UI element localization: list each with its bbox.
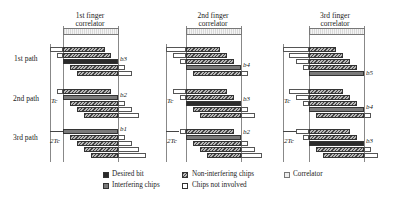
bit-label: b1 — [120, 125, 127, 133]
chip-not-involved — [166, 47, 186, 52]
bit-label: b3 — [120, 55, 127, 63]
chip-not-involved — [241, 71, 248, 76]
non-interfering-chips — [77, 71, 118, 76]
non-interfering-chips — [309, 59, 350, 64]
legend-label: Desired bit — [112, 170, 144, 178]
chip-not-involved — [118, 71, 132, 76]
chip-not-involved — [289, 53, 309, 58]
bit-label: b2 — [120, 91, 127, 99]
non-interfering-chips — [309, 135, 357, 140]
non-interfering-chips — [77, 107, 118, 112]
interfering-chips — [63, 95, 118, 100]
not-involved-swatch — [182, 183, 188, 189]
desired-bit — [309, 141, 364, 146]
chip-not-involved — [118, 107, 132, 112]
bit-label: b3 — [243, 95, 250, 103]
chip-not-involved — [173, 53, 186, 58]
chip-not-involved — [241, 107, 248, 112]
header-line2: correlator — [55, 20, 125, 28]
path-label-1: 1st path — [14, 54, 38, 63]
non-interfering-chips — [84, 113, 118, 118]
chip-not-involved — [364, 113, 371, 118]
non-interfering-chips — [186, 95, 234, 100]
correlator-swatch — [284, 172, 290, 178]
non-interfering-chips — [186, 59, 234, 64]
header-line2: correlator — [178, 20, 248, 28]
non-interfering-chips — [84, 147, 118, 152]
delay-label-2tc: 2Tc — [284, 137, 294, 145]
interfering-chips — [186, 135, 241, 140]
non-interfering-swatch — [182, 172, 188, 178]
delay-label-2tc: 2Tc — [50, 137, 60, 145]
interfering-chips — [63, 129, 118, 134]
legend-label: Chips not involved — [192, 181, 247, 189]
non-interfering-chips — [186, 89, 227, 94]
non-interfering-chips — [207, 153, 241, 158]
delay-label-tc: Tc — [167, 97, 173, 105]
non-interfering-chips — [309, 101, 357, 106]
header-line2: correlator — [300, 20, 370, 28]
non-interfering-chips — [186, 47, 220, 52]
chip-not-involved — [118, 65, 125, 70]
non-interfering-chips — [193, 71, 241, 76]
delay-label-2tc: 2Tc — [167, 137, 177, 145]
non-interfering-chips — [186, 129, 234, 134]
non-interfering-chips — [186, 53, 227, 58]
non-interfering-chips — [91, 153, 118, 158]
chip-not-involved — [296, 129, 309, 134]
chip-not-involved — [118, 147, 139, 152]
desired-bit — [63, 59, 118, 64]
bit-label: b4 — [243, 61, 250, 69]
non-interfering-chips — [70, 135, 118, 140]
chip-not-involved — [241, 113, 255, 118]
non-interfering-chips — [309, 89, 343, 94]
path-label-3: 3rd path — [13, 133, 38, 142]
chip-not-involved — [364, 153, 378, 158]
path-label-2: 2nd path — [13, 94, 39, 103]
non-interfering-chips — [63, 89, 111, 94]
bit-label: b4 — [366, 103, 373, 111]
chip-not-involved — [173, 89, 186, 94]
bit-label: b5 — [366, 69, 373, 77]
delay-arrow — [166, 131, 179, 132]
non-interfering-chips — [200, 113, 241, 118]
non-interfering-chips — [63, 47, 105, 52]
bit-label: b3 — [366, 137, 373, 145]
non-interfering-chips — [316, 113, 364, 118]
chip-not-involved — [241, 147, 255, 152]
chip-not-involved — [118, 135, 125, 140]
non-interfering-chips — [309, 95, 350, 100]
correlator-window — [309, 28, 365, 35]
interfering-chips — [186, 65, 241, 70]
non-interfering-chips — [193, 141, 241, 146]
chip-not-involved — [118, 153, 146, 158]
panel1-header: 1st finger correlator — [55, 12, 125, 28]
non-interfering-chips — [309, 129, 350, 134]
non-interfering-chips — [200, 147, 241, 152]
chip-not-involved — [118, 101, 125, 106]
delay-arrow — [283, 131, 296, 132]
bit-label: b2 — [243, 128, 250, 136]
non-interfering-chips — [323, 153, 364, 158]
chip-not-involved — [289, 89, 309, 94]
legend-label: Non-interfering chips — [192, 170, 254, 178]
non-interfering-chips — [309, 65, 357, 70]
legend-label: Interfering chips — [112, 181, 160, 189]
legend-label: Correlator — [293, 170, 323, 178]
non-interfering-chips — [193, 107, 241, 112]
non-interfering-chips — [309, 53, 343, 58]
chip-not-involved — [296, 59, 309, 64]
non-interfering-chips — [316, 147, 364, 152]
desired-bit — [186, 101, 241, 106]
panel2-header: 2nd finger correlator — [178, 12, 248, 28]
chip-not-involved — [118, 113, 139, 118]
chip-not-involved — [241, 153, 262, 158]
delay-label-tc: Tc — [284, 97, 290, 105]
correlator-window — [63, 28, 119, 35]
interfering-chips — [309, 71, 364, 76]
chip-not-involved — [296, 95, 309, 100]
correlator-window — [186, 28, 242, 35]
correlator-end — [364, 26, 365, 162]
chip-not-involved — [241, 141, 248, 146]
non-interfering-chips — [63, 53, 111, 58]
